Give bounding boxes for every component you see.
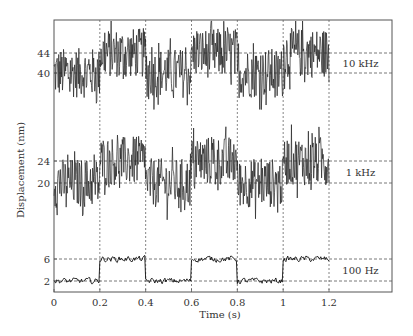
x-tick-label: 1.2 [321, 297, 337, 308]
series-label: 1 kHz [346, 167, 376, 178]
x-tick-label: 1 [280, 297, 286, 308]
x-tick-label: 0.2 [92, 297, 108, 308]
y-tick-label: 6 [44, 254, 50, 265]
x-tick-label: 0 [51, 297, 57, 308]
series-label: 100 Hz [342, 265, 378, 276]
x-axis-label: Time (s) [199, 309, 240, 320]
y-tick-label: 2 [44, 276, 50, 287]
series-label: 10 kHz [343, 58, 379, 69]
y-tick-label: 44 [37, 48, 50, 59]
chart: 00.20.40.60.811.2 4440242062 10 kHz1 kHz… [0, 0, 413, 336]
y-tick-label: 40 [37, 68, 50, 79]
x-tick-label: 0.8 [229, 297, 245, 308]
series-labels: 10 kHz1 kHz100 Hz [342, 58, 378, 276]
y-tick-label: 24 [37, 156, 50, 167]
y-tick-label: 20 [37, 178, 50, 189]
trace-100-hz [54, 255, 329, 284]
x-tick-label: 0.4 [138, 297, 154, 308]
x-tick-label: 0.6 [184, 297, 200, 308]
y-axis-label: Displacement (nm) [15, 122, 26, 218]
